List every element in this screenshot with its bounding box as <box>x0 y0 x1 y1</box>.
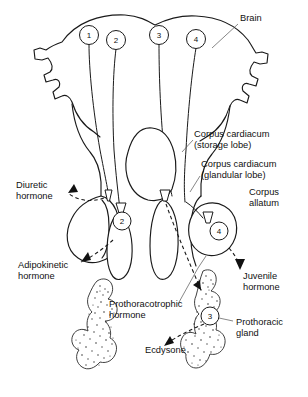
label-diuretic-line-0: Diuretic <box>16 180 48 190</box>
numbered-marker-4b: 4 <box>210 222 228 240</box>
hormone-label-juvenile: Juvenile hormone <box>243 271 280 292</box>
marker-4-label: 4 <box>194 35 199 44</box>
terminal-adipokinetic <box>116 203 126 213</box>
numbered-marker-3b: 3 <box>201 307 219 325</box>
label-cc-glandular-line-0: Corpus cardiacum <box>201 159 277 169</box>
numbered-marker-3: 3 <box>150 26 169 45</box>
label-diuretic-line-1: hormone <box>16 191 53 201</box>
marker-3-label: 3 <box>157 31 162 40</box>
label-cc-glandular-line-1: (glandular lobe) <box>201 170 266 180</box>
anatomy-label-prothoracic-gland: Prothoracic gland <box>236 317 283 338</box>
label-prothoracic-gland-line-1: gland <box>236 328 259 338</box>
label-cc-storage-line-0: Corpus cardiacum <box>194 129 270 139</box>
hormone-label-prothoracotrophic: Prothoracotrophic hormone <box>109 299 183 320</box>
marker-1-label: 1 <box>87 31 92 40</box>
marker-4b-label: 4 <box>217 227 222 236</box>
label-prothoracic-gland-line-0: Prothoracic <box>236 317 283 327</box>
hormone-label-adipokinetic: Adipokinetic hormone <box>18 260 68 281</box>
label-juvenile-line-0: Juvenile <box>243 271 277 281</box>
label-corpus-allatum-line-1: allatum <box>249 198 279 208</box>
prothoracic-gland-left <box>72 279 117 369</box>
label-juvenile-line-1: hormone <box>243 282 280 292</box>
arrow-diuretic-head <box>68 184 78 193</box>
marker-3b-label: 3 <box>208 312 213 321</box>
prothoracic-gland-left-group <box>72 279 117 369</box>
insect-neuroendocrine-diagram: 1 2 3 4 <box>0 0 308 397</box>
anatomy-label-corpus-allatum: Corpus allatum <box>249 187 279 208</box>
anatomy-label-brain: Brain <box>240 13 262 23</box>
diagram-page: 1 2 3 4 <box>0 0 308 397</box>
leader-prothoracic-gland <box>219 318 233 321</box>
anatomy-label-cc-storage: Corpus cardiacum (storage lobe) <box>194 129 270 150</box>
marker-2-label: 2 <box>114 36 119 45</box>
label-prothoracotrophic-line-1: hormone <box>109 310 146 320</box>
corpora-structure-group <box>67 128 236 280</box>
hormone-label-diuretic: Diuretic hormone <box>16 180 53 201</box>
marker-2b-label: 2 <box>120 217 125 226</box>
numbered-marker-2b: 2 <box>113 212 131 230</box>
label-brain-line-0: Brain <box>240 13 262 23</box>
central-right-pendant-lobe <box>150 200 178 279</box>
label-prothoracotrophic-line-0: Prothoracotrophic <box>109 299 183 309</box>
label-adipokinetic-line-0: Adipokinetic <box>18 260 68 270</box>
arrow-juvenile-head <box>235 259 245 270</box>
leader-cc-storage <box>182 140 193 152</box>
label-cc-storage-line-1: (storage lobe) <box>194 140 251 150</box>
numbered-marker-2: 2 <box>107 31 126 50</box>
anatomy-label-cc-glandular: Corpus cardiacum (glandular lobe) <box>201 159 277 180</box>
numbered-marker-4: 4 <box>187 30 206 49</box>
label-corpus-allatum-line-0: Corpus <box>249 187 279 197</box>
hormone-label-ecdysone: Ecdysone <box>145 345 186 355</box>
leader-cc-glandular <box>190 176 200 192</box>
label-adipokinetic-line-1: hormone <box>18 271 55 281</box>
numbered-marker-1: 1 <box>80 26 99 45</box>
label-ecdysone-line-0: Ecdysone <box>145 345 186 355</box>
